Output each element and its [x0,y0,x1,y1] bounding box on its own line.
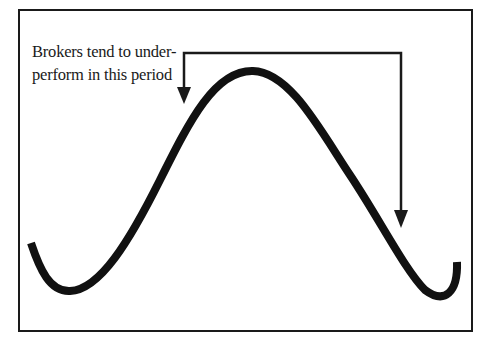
annotation-line-2: perform in this period [32,63,176,86]
cycle-curve [31,71,457,296]
period-bracket [184,53,401,218]
left-down-arrow-icon [177,87,191,104]
right-down-arrow-icon [394,210,408,228]
annotation-line-1: Brokers tend to under- [32,40,176,63]
annotation-label: Brokers tend to under- perform in this p… [32,40,176,86]
